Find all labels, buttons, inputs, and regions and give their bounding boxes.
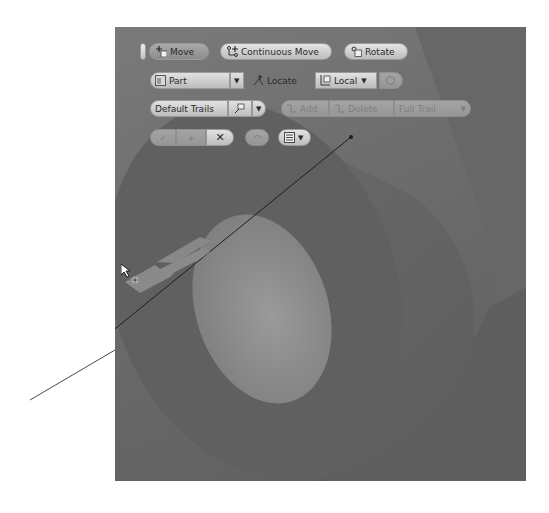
axis-line-extension xyxy=(0,0,549,513)
